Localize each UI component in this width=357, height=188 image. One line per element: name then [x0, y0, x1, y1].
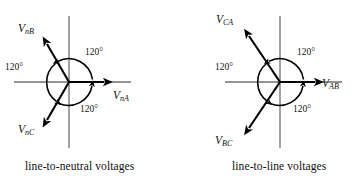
label-vbc-symbol: V	[215, 134, 222, 146]
angle-label-left-1: 120°	[85, 47, 103, 57]
label-vbc-subscript: BC	[222, 139, 232, 148]
label-vnc-subscript: nC	[25, 128, 34, 137]
left-arc-a-to-b	[58, 59, 93, 80]
label-vnb-symbol: V	[18, 22, 25, 34]
right-arc-ab-to-ca	[269, 59, 304, 80]
label-vca: VCA	[216, 13, 233, 27]
angle-label-right-1: 120°	[297, 47, 315, 57]
label-vnc: VnC	[18, 123, 34, 137]
caption-line-to-line: line-to-line voltages	[232, 160, 326, 172]
angle-label-left-3: 120°	[80, 104, 98, 114]
label-vca-subscript: CA	[223, 18, 233, 27]
angle-label-right-3: 120°	[293, 104, 311, 114]
label-vca-symbol: V	[216, 13, 223, 25]
label-vna-symbol: V	[113, 89, 120, 101]
label-vab-subscript: AB	[329, 82, 339, 91]
label-vna-subscript: nA	[120, 94, 129, 103]
vector-vnb	[47, 44, 69, 82]
label-vnc-symbol: V	[18, 123, 25, 135]
angle-label-left-2: 120°	[5, 62, 23, 72]
label-vbc: VBC	[215, 134, 232, 148]
label-vab-symbol: V	[322, 77, 329, 89]
label-vnb-subscript: nB	[25, 27, 34, 36]
angle-label-right-2: 120°	[215, 62, 233, 72]
caption-line-to-neutral: line-to-neutral voltages	[25, 160, 134, 172]
label-vna: VnA	[113, 89, 129, 103]
vector-vnc	[47, 82, 69, 120]
label-vab: VAB	[322, 77, 339, 91]
label-vnb: VnB	[18, 22, 34, 36]
